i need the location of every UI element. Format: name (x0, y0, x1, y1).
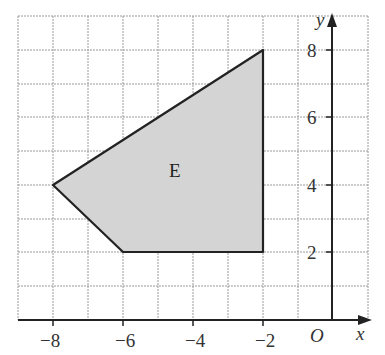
x-tick-label: −2 (255, 330, 275, 351)
y-axis-label: y (314, 9, 325, 30)
y-axis (327, 13, 337, 320)
y-tick-label: 6 (307, 107, 317, 128)
y-tick-label: 2 (307, 242, 317, 263)
coordinate-grid-chart: E −8 −6 −4 −2 8 6 4 2 O x y (0, 0, 385, 355)
x-axis-label: x (355, 323, 365, 344)
x-axis (18, 315, 372, 325)
x-tick-label: −6 (115, 330, 135, 351)
x-tick-label: −4 (185, 330, 206, 351)
y-axis-arrow-icon (327, 13, 337, 27)
x-tick-label: −8 (40, 330, 60, 351)
origin-label: O (310, 325, 324, 346)
y-tick-label: 4 (307, 175, 317, 196)
y-tick-label: 8 (307, 40, 317, 61)
shape-e-label: E (169, 160, 181, 181)
